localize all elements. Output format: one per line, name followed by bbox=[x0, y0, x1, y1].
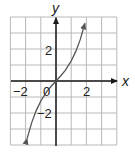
origin-label: 0 bbox=[43, 84, 50, 99]
x-axis-label: x bbox=[121, 73, 130, 89]
y-tick-label-neg2: −2 bbox=[37, 106, 52, 121]
y-tick-label-2: 2 bbox=[45, 43, 52, 58]
x-tick-label-neg2: −2 bbox=[13, 84, 28, 99]
y-axis-label: y bbox=[51, 0, 60, 16]
x-tick-label-2: 2 bbox=[83, 84, 90, 99]
function-graph: y x −2 0 2 2 −2 bbox=[0, 0, 135, 159]
